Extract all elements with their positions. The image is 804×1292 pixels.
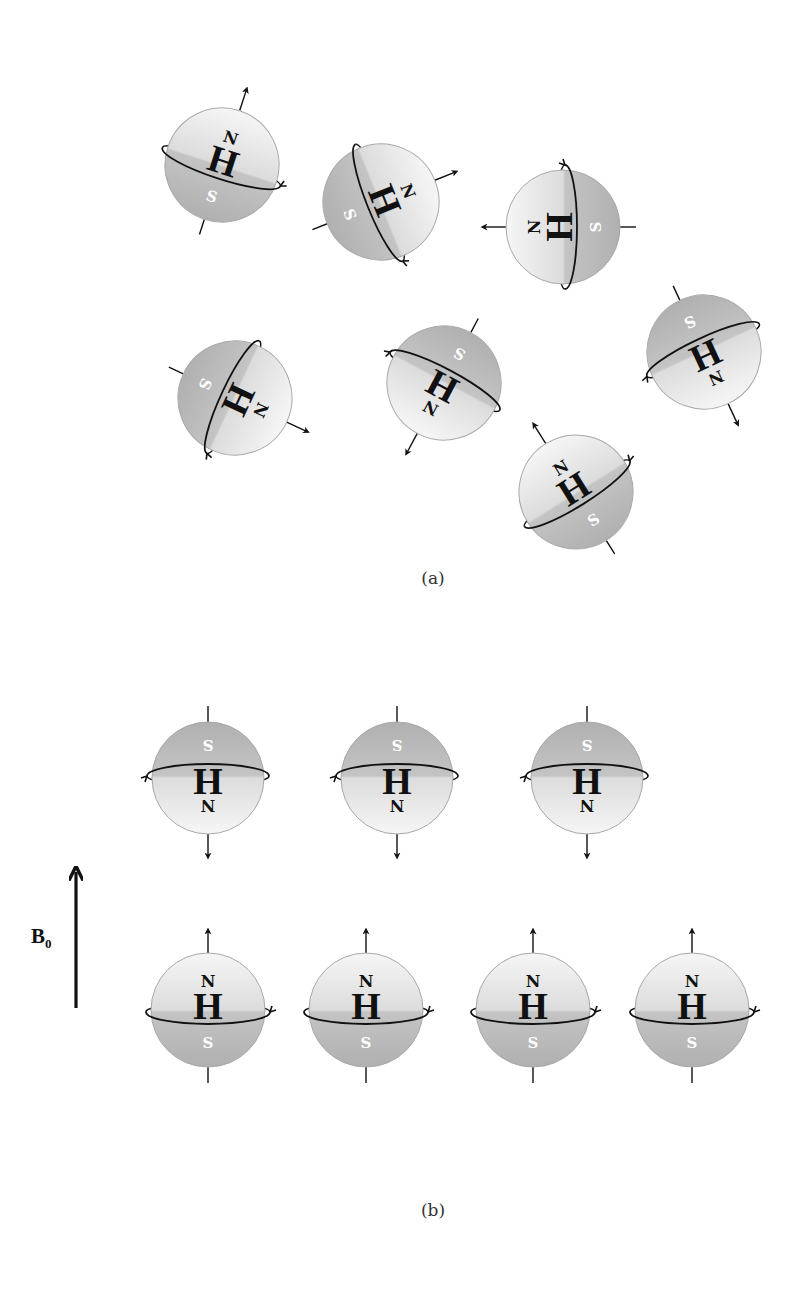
south-pole-label: S xyxy=(361,1034,372,1052)
south-pole-label: S xyxy=(528,1034,539,1052)
proton-anti-parallel-3: NHS xyxy=(520,706,648,856)
hydrogen-label: H xyxy=(677,985,707,1027)
axis-tail xyxy=(199,219,204,234)
rotation-arrow-icon xyxy=(382,349,390,357)
proton-random-2: NHS xyxy=(289,114,481,294)
axis-tail xyxy=(471,319,479,333)
caption-panel-a: (a) xyxy=(421,568,444,588)
proton-random-6: NHS xyxy=(612,260,794,453)
b0-label-text: B xyxy=(31,924,45,948)
rotation-arrow-icon xyxy=(428,1006,434,1012)
proton-parallel-1: NHS xyxy=(146,931,276,1083)
proton-random-4: NHS xyxy=(140,311,333,493)
north-arrow-icon xyxy=(534,425,546,444)
rotation-arrow-icon xyxy=(330,776,336,782)
rotation-arrow-icon xyxy=(280,180,288,188)
b0-field-label: B0 xyxy=(31,924,52,952)
proton-random-1: NHS xyxy=(140,71,311,256)
hydrogen-label: H xyxy=(351,985,381,1027)
south-pole-label: S xyxy=(582,736,593,754)
hydrogen-label: H xyxy=(538,212,580,242)
south-pole-label: S xyxy=(203,736,214,754)
rotation-arrow-icon xyxy=(595,1006,601,1012)
panel-b-aligned-orientation: NHSNHSNHSNHSNHSNHSNHS xyxy=(141,706,760,1083)
proton-alignment-diagram: NHSNHSNHSNHSNHSNHSNHS NHSNHSNHSNHSNHSNHS… xyxy=(0,0,804,1292)
north-arrow-icon xyxy=(407,433,417,452)
south-pole-label: S xyxy=(587,222,605,233)
axis-tail xyxy=(673,286,680,301)
rotation-arrow-icon xyxy=(270,1006,276,1012)
proton-anti-parallel-1: NHS xyxy=(141,706,269,856)
north-arrow-icon xyxy=(240,90,247,111)
south-pole-label: S xyxy=(203,1034,214,1052)
north-arrow-icon xyxy=(728,404,737,424)
caption-panel-b: (b) xyxy=(421,1200,445,1220)
rotation-arrow-icon xyxy=(520,776,526,782)
rotation-arrow-icon xyxy=(204,453,212,461)
proton-random-5: NHS xyxy=(347,287,533,482)
south-pole-label: S xyxy=(392,736,403,754)
panel-a-random-orientation: NHSNHSNHSNHSNHSNHSNHS xyxy=(140,71,793,587)
hydrogen-label: H xyxy=(518,985,548,1027)
proton-parallel-3: NHS xyxy=(471,931,601,1083)
hydrogen-label: H xyxy=(382,761,412,803)
proton-parallel-4: NHS xyxy=(630,931,760,1083)
rotation-arrow-icon xyxy=(559,159,565,165)
south-pole-label: S xyxy=(687,1034,698,1052)
axis-tail xyxy=(312,224,327,230)
axis-tail xyxy=(606,540,614,554)
hydrogen-label: H xyxy=(193,761,223,803)
north-arrow-icon xyxy=(287,422,307,431)
proton-random-3: NHS xyxy=(484,159,636,289)
proton-random-7: NHS xyxy=(482,389,673,587)
b0-label-subscript: 0 xyxy=(45,936,52,951)
proton-anti-parallel-2: NHS xyxy=(330,706,458,856)
proton-parallel-2: NHS xyxy=(304,931,434,1083)
hydrogen-label: H xyxy=(193,985,223,1027)
axis-tail xyxy=(169,367,184,374)
north-arrow-icon xyxy=(435,172,455,180)
rotation-arrow-icon xyxy=(754,1006,760,1012)
rotation-arrow-icon xyxy=(141,776,147,782)
hydrogen-label: H xyxy=(572,761,602,803)
